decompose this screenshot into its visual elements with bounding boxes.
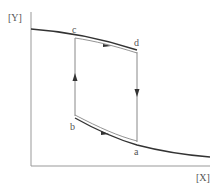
y-axis-label: [Y]	[8, 12, 22, 23]
x-axis-label: [X]	[196, 172, 210, 183]
lower-branch-curve	[75, 118, 210, 157]
point-d-label: d	[134, 37, 139, 48]
up-arrow-icon	[73, 73, 78, 81]
point-a-label: a	[134, 146, 139, 157]
down-arrow-icon	[135, 89, 140, 97]
hysteresis-diagram: [Y] [X] c d b a	[0, 0, 220, 189]
point-b-label: b	[70, 121, 75, 132]
lower-transition-line	[75, 115, 137, 141]
point-c-label: c	[72, 24, 77, 35]
